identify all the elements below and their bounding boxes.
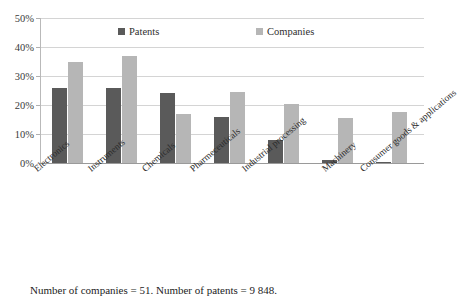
y-tick-label-20: 20% <box>2 100 34 111</box>
y-tick-label-40: 40% <box>2 42 34 53</box>
y-tick-label-10: 10% <box>2 129 34 140</box>
y-tick-label-30: 30% <box>2 71 34 82</box>
bar-group-2 <box>160 18 196 163</box>
chart-caption: Number of companies = 51. Number of pate… <box>30 284 277 297</box>
bar-companies-2 <box>176 114 191 163</box>
y-tick-label-50: 50% <box>2 13 34 24</box>
bar-companies-0 <box>68 62 83 164</box>
x-axis-labels: Electronics Instruments Chemicals Pharme… <box>0 166 436 266</box>
bar-group-0 <box>52 18 88 163</box>
